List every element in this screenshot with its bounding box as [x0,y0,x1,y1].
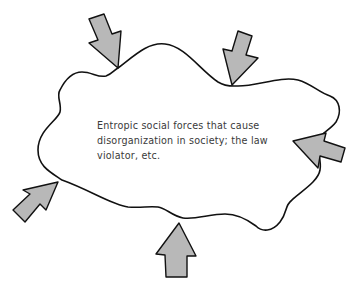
arrow-top-left-icon [89,14,121,68]
arrow-right-icon [293,133,345,168]
center-text: Entropic social forces that cause disorg… [97,118,297,163]
arrow-bottom-left-icon [13,182,58,222]
center-text-line-2: disorganization in society; the law [97,133,297,148]
arrow-bottom-icon [156,223,196,277]
center-text-line-1: Entropic social forces that cause [97,118,297,133]
center-text-line-3: violator, etc. [97,148,297,163]
diagram-canvas: Entropic social forces that cause disorg… [0,0,359,288]
arrow-top-right-icon [223,31,258,85]
